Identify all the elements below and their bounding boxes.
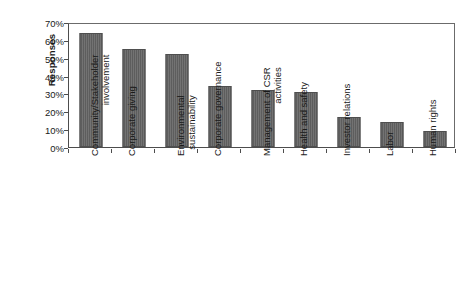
- x-axis-category-label-line: involvement: [100, 55, 111, 156]
- y-axis-tick-mark: [64, 23, 68, 24]
- x-axis-tick-mark: [455, 149, 456, 153]
- x-axis-tick-mark: [197, 149, 198, 153]
- y-axis-tick-label: 50%: [30, 53, 64, 64]
- x-axis-category-label: Health and safety: [299, 82, 310, 156]
- x-axis-tick-mark: [283, 149, 284, 153]
- x-axis-category-label: Management of CSRactivities: [262, 67, 283, 156]
- y-axis-tick-mark: [64, 41, 68, 42]
- y-axis-tick-mark: [64, 112, 68, 113]
- y-axis-tick-label: 40%: [30, 71, 64, 82]
- x-axis-category-label: Environmentalsustainability: [176, 95, 197, 156]
- x-axis-category-label: Corporate governance: [213, 61, 224, 156]
- y-axis-tick-label: 30%: [30, 89, 64, 100]
- bar-slot: [370, 24, 413, 147]
- x-axis-category-label-line: Human rights: [428, 100, 439, 157]
- x-axis-category-label: Community/Stakeholderinvolvement: [90, 55, 111, 156]
- x-axis-category-label: Investor relations: [342, 84, 353, 156]
- y-axis-tick-label: 70%: [30, 18, 64, 29]
- x-axis-tick-mark: [240, 149, 241, 153]
- x-axis-tick-mark: [369, 149, 370, 153]
- x-axis-tick-mark: [68, 149, 69, 153]
- x-axis-category-label-line: Corporate governance: [213, 61, 224, 156]
- y-axis-tick-mark: [64, 77, 68, 78]
- x-axis-category-label-line: Health and safety: [299, 82, 310, 156]
- x-axis-category-label-line: Labor: [385, 132, 396, 156]
- y-axis-tick-mark: [64, 59, 68, 60]
- x-axis-category-label-line: sustainability: [186, 95, 197, 156]
- bar-chart-figure: Responses 70%60%50%40%30%20%10%0% Commun…: [0, 0, 476, 282]
- x-axis-category-label-line: Community/Stakeholder: [90, 55, 101, 156]
- x-axis-tick-mark: [154, 149, 155, 153]
- x-axis-category-label-line: activities: [272, 67, 283, 156]
- y-axis-tick-label: 20%: [30, 107, 64, 118]
- x-axis-tick-mark: [111, 149, 112, 153]
- x-axis-category-label-line: Corporate giving: [127, 86, 138, 156]
- y-axis-tick-label: 60%: [30, 35, 64, 46]
- y-axis-tick-mark: [64, 130, 68, 131]
- x-axis-category-label-line: Investor relations: [342, 84, 353, 156]
- y-axis-tick-labels: 70%60%50%40%30%20%10%0%: [30, 23, 64, 148]
- y-axis-tick-label: 10%: [30, 125, 64, 136]
- x-axis-tick-mark: [326, 149, 327, 153]
- x-axis-category-label: Human rights: [428, 100, 439, 157]
- y-axis-tick-label: 0%: [30, 143, 64, 154]
- x-axis-category-label-line: Management of CSR: [262, 67, 273, 156]
- x-axis-tick-mark: [412, 149, 413, 153]
- x-axis-category-label: Corporate giving: [127, 86, 138, 156]
- y-axis-tick-mark: [64, 94, 68, 95]
- x-axis-category-label: Labor: [385, 132, 396, 156]
- x-axis-category-label-line: Environmental: [176, 95, 187, 156]
